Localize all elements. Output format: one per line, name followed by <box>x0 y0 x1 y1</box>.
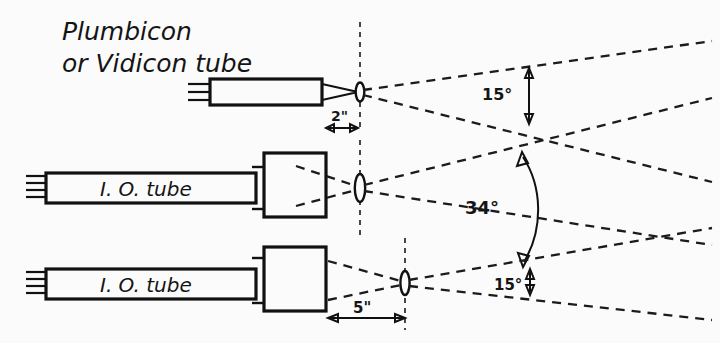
tube-bottom: I. O. tube <box>26 247 326 311</box>
title-line-1: Plumbicon <box>62 17 192 46</box>
optical-ray-diagram: Plumbicon or Vidicon tube 2" <box>0 0 720 343</box>
tube-middle-label: I. O. tube <box>100 177 192 201</box>
dim-2in: 2" <box>326 108 358 132</box>
tube-middle: I. O. tube <box>26 153 326 217</box>
angle-bottom-label: 15° <box>494 276 522 294</box>
dim-5in-label: 5" <box>353 299 371 317</box>
ray-top-upper <box>363 41 712 90</box>
dim-2in-label: 2" <box>331 108 348 124</box>
tube-middle-head <box>264 153 326 217</box>
tube-top-body <box>210 79 322 105</box>
angle-top-label: 15° <box>482 85 512 104</box>
ray-bottom-in-lower <box>328 285 401 300</box>
lens-bottom <box>400 271 409 295</box>
tube-bottom-label: I. O. tube <box>100 273 192 297</box>
angle-bottom: 15° <box>494 269 534 295</box>
dim-5in: 5" <box>328 299 405 322</box>
lens-middle <box>355 174 365 202</box>
tube-top-pins <box>188 84 212 100</box>
angle-middle: 34° <box>465 152 538 267</box>
ray-bottom-out-lower <box>409 286 712 320</box>
angle-top: 15° <box>482 68 533 124</box>
figure-canvas: Plumbicon or Vidicon tube 2" <box>0 0 720 343</box>
ray-bottom-out-upper <box>409 228 712 280</box>
tube-top <box>188 79 358 105</box>
ray-bottom-in-upper <box>328 261 401 281</box>
angle-middle-label: 34° <box>465 197 499 218</box>
tube-bottom-head <box>264 247 326 311</box>
tube-top-nose <box>322 84 358 100</box>
ray-middle-out-upper <box>364 98 712 185</box>
ray-top-lower <box>363 95 712 182</box>
title-line-2: or Vidicon tube <box>62 49 252 78</box>
lens-top <box>356 83 365 102</box>
